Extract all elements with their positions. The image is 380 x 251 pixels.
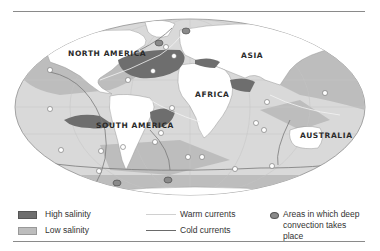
legend-low-salinity-label: Low salinity bbox=[45, 225, 89, 236]
label-africa: AFRICA bbox=[195, 90, 229, 99]
world-ocean-salinity-map: NORTH AMERICA ASIA AFRICA SOUTH AMERICA … bbox=[0, 0, 380, 205]
legend-cold-currents-label: Cold currents bbox=[180, 225, 231, 236]
convection-marker-greenland bbox=[182, 28, 190, 34]
legend-warm-currents: Warm currents bbox=[146, 209, 235, 220]
convection-marker-labrador bbox=[155, 40, 163, 46]
label-australia: AUSTRALIA bbox=[300, 131, 353, 140]
convection-marker-weddell bbox=[164, 177, 172, 183]
convection-marker-ross bbox=[113, 180, 121, 186]
high-salinity-swatch bbox=[18, 211, 37, 219]
legend-low-salinity: Low salinity bbox=[18, 225, 89, 236]
low-salinity-swatch bbox=[18, 227, 37, 235]
label-north-america: NORTH AMERICA bbox=[68, 49, 146, 58]
legend-warm-currents-label: Warm currents bbox=[180, 209, 235, 220]
label-south-america: SOUTH AMERICA bbox=[96, 121, 174, 130]
legend-high-salinity: High salinity bbox=[18, 209, 91, 220]
legend-high-salinity-label: High salinity bbox=[45, 209, 91, 220]
convection-dot-icon bbox=[270, 212, 279, 219]
legend-deep-convection-label: Areas in which deep convection takes pla… bbox=[283, 209, 363, 242]
warm-current-line-icon bbox=[146, 214, 176, 215]
legend-deep-convection: Areas in which deep convection takes pla… bbox=[270, 209, 363, 242]
label-asia: ASIA bbox=[241, 51, 263, 60]
cold-current-line-icon bbox=[146, 230, 176, 231]
bottom-rule bbox=[13, 241, 365, 242]
legend-cold-currents: Cold currents bbox=[146, 225, 231, 236]
